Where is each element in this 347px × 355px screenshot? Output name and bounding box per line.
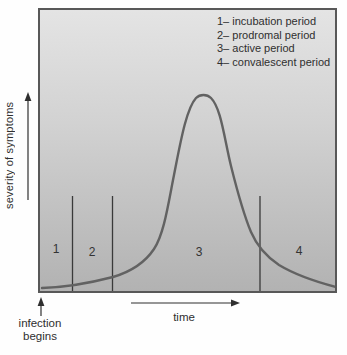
region-number-2: 2 xyxy=(89,245,96,259)
legend-item-convalescent: 4– convalescent period xyxy=(217,56,330,70)
legend-item-prodromal: 2– prodromal period xyxy=(217,29,330,43)
region-number-3: 3 xyxy=(196,245,203,259)
legend: 1– incubation period 2– prodromal period… xyxy=(217,15,330,69)
infection-begins-arrow-icon xyxy=(38,297,45,316)
region-number-1: 1 xyxy=(53,242,60,256)
infection-begins-label: infection begins xyxy=(11,317,69,343)
disease-periods-figure: 1– incubation period 2– prodromal period… xyxy=(0,0,347,355)
region-number-4: 4 xyxy=(296,244,303,258)
infection-begins-line1: infection xyxy=(11,317,69,330)
severity-arrow-icon xyxy=(25,92,32,200)
symptom-severity-curve xyxy=(42,95,335,288)
plot-area: 1– incubation period 2– prodromal period… xyxy=(38,8,337,293)
x-axis-label: time xyxy=(158,311,210,323)
y-axis-label: severity of symptoms xyxy=(3,93,18,217)
time-arrow-icon xyxy=(131,300,240,307)
infection-begins-line2: begins xyxy=(11,330,69,343)
legend-item-active: 3– active period xyxy=(217,42,330,56)
legend-item-incubation: 1– incubation period xyxy=(217,15,330,29)
